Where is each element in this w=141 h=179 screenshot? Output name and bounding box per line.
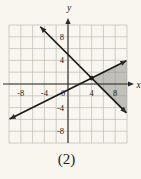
- x-tick-label: 4: [89, 88, 94, 98]
- intersection-point: [89, 76, 94, 81]
- y-tick-label: 8: [60, 32, 64, 42]
- graph-canvas: yx-8-44884-4-80: [0, 0, 141, 150]
- x-tick-label: -8: [17, 88, 24, 98]
- y-tick-label: -8: [57, 126, 64, 136]
- y-tick-label: -4: [57, 103, 65, 113]
- coordinate-graph-figure: yx-8-44884-4-80 (2): [0, 0, 141, 179]
- x-tick-label: -4: [41, 88, 49, 98]
- x-tick-label: 8: [113, 88, 117, 98]
- y-axis-label: y: [66, 3, 72, 13]
- figure-caption: (2): [0, 151, 133, 168]
- y-axis-arrow-icon: [65, 18, 70, 24]
- x-axis-label: x: [135, 80, 141, 90]
- x-axis-arrow-icon: [128, 81, 134, 86]
